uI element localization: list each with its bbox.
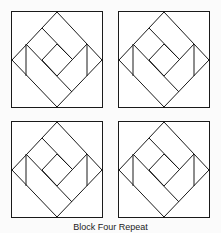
quilt-block-top-right [118, 11, 210, 108]
quilt-block-bottom-left [11, 121, 103, 218]
quilt-block-pattern [11, 121, 103, 218]
quilt-block-top-left [11, 11, 103, 108]
figure-caption: Block Four Repeat [0, 222, 221, 233]
quilt-block-pattern [11, 11, 103, 108]
quilt-block-pattern [118, 11, 210, 108]
quilt-block-bottom-right [118, 121, 210, 218]
quilt-block-pattern [118, 121, 210, 218]
